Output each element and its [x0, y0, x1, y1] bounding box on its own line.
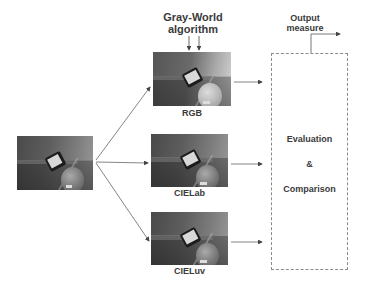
output-label-line1: Output [280, 13, 330, 23]
algorithm-label-line2: algorithm [158, 23, 228, 35]
cielab-result-image [151, 134, 228, 187]
algorithm-label: Gray-World algorithm [158, 11, 228, 35]
output-measure-label: Output measure [280, 13, 330, 33]
rgb-result-image [153, 52, 231, 106]
cieluv-label: CIELuv [151, 266, 228, 276]
cieluv-result-image [151, 212, 228, 265]
evaluation-text: Evaluation [272, 134, 347, 144]
rgb-label: RGB [153, 108, 231, 118]
comparison-text: Comparison [272, 184, 347, 194]
output-label-line2: measure [280, 23, 330, 33]
ampersand-text: & [272, 159, 347, 169]
input-image [17, 136, 93, 190]
algorithm-label-line1: Gray-World [158, 11, 228, 23]
cielab-label: CIELab [151, 188, 228, 198]
evaluation-box: Evaluation & Comparison [271, 53, 348, 270]
